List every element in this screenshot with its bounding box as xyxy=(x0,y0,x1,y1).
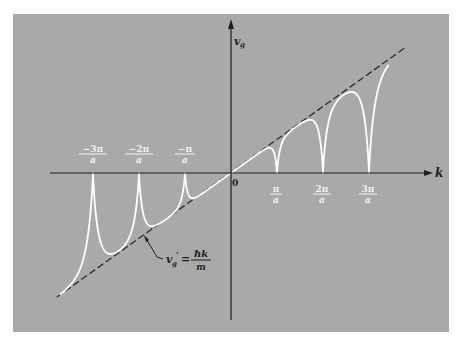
svg-text:a: a xyxy=(365,195,371,205)
svg-text:−π: −π xyxy=(178,144,193,154)
k-axis-label: k xyxy=(435,166,443,180)
svg-text:π: π xyxy=(273,184,280,194)
diagram-canvas: k v g 0 π a 2π a 3π a −3π a −2π a −π a v xyxy=(0,0,461,342)
tick-label-3pi-over-a: 3π a xyxy=(359,184,377,205)
vg-axis-arrow-icon xyxy=(228,19,234,29)
svg-text:a: a xyxy=(319,195,325,205)
svg-text:a: a xyxy=(136,155,142,165)
svg-text:=: = xyxy=(181,253,190,266)
tick-label-pi-over-a: π a xyxy=(270,184,282,205)
vg-axis-label: v g xyxy=(234,35,245,49)
origin-label: 0 xyxy=(232,178,238,188)
svg-text:g: g xyxy=(172,259,177,268)
svg-text:−2π: −2π xyxy=(129,144,150,154)
svg-text:ħk: ħk xyxy=(194,248,208,259)
tick-label-neg-3pi-over-a: −3π a xyxy=(79,144,107,165)
svg-text:a: a xyxy=(182,155,188,165)
svg-text:−3π: −3π xyxy=(83,144,104,154)
tick-label-2pi-over-a: 2π a xyxy=(313,184,331,205)
svg-text:2π: 2π xyxy=(316,184,329,194)
tick-label-neg-2pi-over-a: −2π a xyxy=(125,144,153,165)
svg-text:3π: 3π xyxy=(362,184,375,194)
svg-text:g: g xyxy=(240,40,245,49)
k-axis-arrow-icon xyxy=(424,170,433,176)
free-electron-equation: v g ' = ħk m xyxy=(166,248,211,272)
svg-text:': ' xyxy=(176,249,178,259)
svg-text:a: a xyxy=(273,195,279,205)
annotation-arrow-icon xyxy=(144,235,149,242)
tick-label-neg-pi-over-a: −π a xyxy=(175,144,195,165)
svg-text:a: a xyxy=(90,155,96,165)
svg-text:m: m xyxy=(196,262,206,272)
